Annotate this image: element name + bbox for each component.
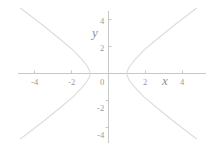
y-tick-label-neg4: -4: [97, 131, 104, 140]
plot-canvas: [0, 0, 220, 148]
x-tick-label-neg2: -2: [68, 78, 75, 87]
x-axis-label: x: [162, 74, 168, 87]
x-tick-label-4: 4: [180, 78, 184, 87]
y-tick-label-2: 2: [100, 44, 104, 53]
y-tick-label-neg2: -2: [97, 104, 104, 113]
hyperbola-plot-figure: -4 -2 0 2 4 4 2 -2 -4 y x: [0, 0, 220, 148]
x-tick-label-0: 0: [100, 78, 104, 87]
y-tick-label-4: 4: [100, 17, 104, 26]
x-tick-label-2: 2: [143, 78, 147, 87]
x-tick-label-neg4: -4: [31, 78, 38, 87]
y-axis-label: y: [92, 26, 98, 39]
